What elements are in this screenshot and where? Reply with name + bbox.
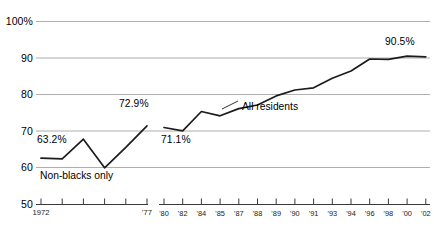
x-axis-label-1972: 1972 [25, 208, 57, 217]
y-axis-label-90: 90 [0, 52, 33, 64]
data-label-71-1-percent: 71.1% [161, 134, 191, 145]
series-line-non-blacks-only [41, 126, 147, 168]
y-axis-label-80: 80 [0, 88, 33, 100]
x-ticks-right [164, 199, 426, 205]
x-axis-label-02: '02 [415, 209, 434, 218]
series-line-all-residents [164, 56, 426, 131]
gridlines [36, 22, 430, 168]
y-axis-label-60: 60 [0, 161, 33, 173]
leader-line-all-residents [222, 101, 238, 109]
x-ticks-left [41, 199, 147, 205]
series-label-all-residents: All residents [242, 101, 298, 112]
y-axis-label-100: 100% [0, 15, 33, 27]
data-label-72-9-percent: 72.9% [119, 98, 149, 109]
y-axis-label-70: 70 [0, 125, 33, 137]
chart-plot-area [0, 0, 434, 232]
series-label-non-blacks-only: Non-blacks only [40, 170, 113, 181]
data-label-63-2-percent: 63.2% [37, 134, 67, 145]
data-label-90-5-percent: 90.5% [385, 36, 415, 47]
chart-container: 100% 90 80 70 60 50 1972 '77 '80 '82 '84… [0, 0, 434, 232]
